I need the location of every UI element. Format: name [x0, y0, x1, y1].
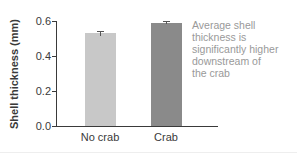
annotation-line: thickness is	[192, 31, 297, 43]
annotation-line: the crab	[192, 67, 297, 79]
y-tick	[52, 56, 56, 57]
y-tick-label: 0.0	[36, 121, 51, 132]
divider	[0, 152, 297, 153]
error-cap-crab	[163, 21, 170, 22]
bar-no-crab	[85, 33, 116, 126]
annotation-line: downstream of	[192, 55, 297, 67]
x-label-no-crab: No crab	[70, 131, 130, 143]
x-axis	[56, 126, 218, 127]
annotation: Average shell thickness is significantly…	[192, 19, 297, 79]
y-axis-label: Shell thickness (mm)	[8, 19, 20, 129]
y-tick-label: 0.6	[36, 16, 51, 27]
y-axis	[56, 21, 57, 127]
y-tick-label: 0.2	[36, 86, 51, 97]
y-tick	[52, 21, 56, 22]
bar-crab	[151, 23, 182, 126]
y-tick	[52, 91, 56, 92]
y-tick	[52, 126, 56, 127]
annotation-line: Average shell	[192, 19, 297, 31]
error-cap-no-crab	[97, 31, 104, 32]
y-tick-label: 0.4	[36, 51, 51, 62]
annotation-line: significantly higher	[192, 43, 297, 55]
x-label-crab: Crab	[136, 131, 196, 143]
